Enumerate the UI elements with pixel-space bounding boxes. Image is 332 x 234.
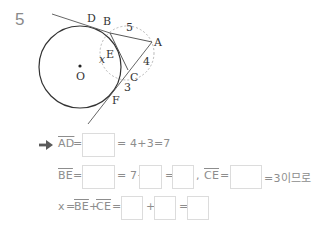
- solution-row-2: BE = = 7− = , CE = =3이므로: [0, 165, 332, 189]
- geometry-diagram: D B 5 A E x 4 O C 3 F: [0, 0, 332, 130]
- label-e: E: [106, 48, 114, 61]
- variable-x: x: [58, 200, 65, 213]
- label-o: O: [76, 70, 85, 83]
- label-b: B: [103, 15, 111, 28]
- segment-be-label: BE: [58, 169, 73, 182]
- answer-box-x[interactable]: [187, 196, 209, 220]
- label-3: 3: [124, 81, 131, 94]
- answer-box-sum-2[interactable]: [154, 196, 176, 220]
- answer-box-be-value[interactable]: [172, 165, 194, 189]
- label-f: F: [112, 94, 120, 107]
- answer-box-subtrahend[interactable]: [139, 165, 162, 189]
- segment-ad-label: AD: [58, 137, 74, 150]
- equals-sign: =: [73, 169, 82, 182]
- segment-ce-label: CE: [204, 169, 219, 182]
- ce-result-text: =3이므로: [264, 169, 311, 185]
- equals-sign: =: [73, 137, 82, 150]
- segment-ba: [110, 33, 152, 42]
- label-x: x: [99, 53, 106, 66]
- answer-box-ce[interactable]: [230, 165, 262, 189]
- label-a: A: [153, 36, 163, 49]
- segment-ce-label: CE: [96, 200, 111, 213]
- solution-row-3: x = BE + CE = + =: [0, 196, 332, 220]
- equals-sign: =: [220, 169, 229, 182]
- equals-sign: =: [112, 200, 121, 213]
- label-4: 4: [143, 55, 150, 68]
- ad-result-text: = 4+3=7: [117, 137, 171, 150]
- answer-box-ad[interactable]: [82, 133, 115, 157]
- label-d: D: [87, 12, 96, 25]
- answer-box-be[interactable]: [82, 165, 115, 189]
- label-5: 5: [126, 21, 133, 34]
- solution-row-1: AD = = 4+3=7: [0, 133, 332, 157]
- center-dot: [78, 64, 81, 67]
- answer-box-sum-1[interactable]: [121, 196, 143, 220]
- segment-be-label: BE: [74, 200, 89, 213]
- comma: ,: [196, 169, 200, 182]
- label-c: C: [130, 71, 138, 84]
